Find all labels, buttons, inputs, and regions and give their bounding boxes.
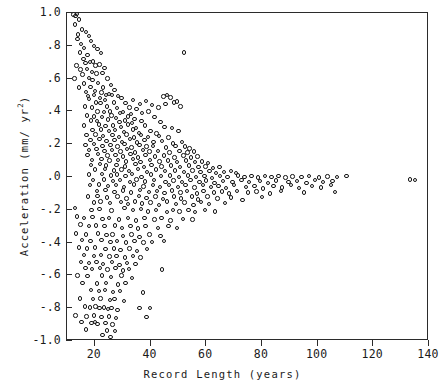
data-point <box>133 199 137 203</box>
data-point <box>100 273 104 277</box>
data-point <box>125 261 129 265</box>
data-point <box>232 183 236 187</box>
data-point <box>297 186 301 190</box>
data-point <box>105 195 109 199</box>
data-point <box>94 260 98 264</box>
data-point <box>112 100 116 104</box>
data-point <box>113 329 117 333</box>
data-point <box>99 51 103 55</box>
data-point <box>201 189 205 193</box>
data-point <box>142 216 146 220</box>
data-point <box>122 206 126 210</box>
data-point <box>246 190 250 194</box>
data-point <box>133 162 137 166</box>
data-point <box>224 186 228 190</box>
data-point <box>84 133 88 137</box>
data-point <box>100 115 104 119</box>
data-point <box>139 207 143 211</box>
data-point <box>75 214 79 218</box>
data-point <box>92 114 96 118</box>
data-point <box>240 198 244 202</box>
data-point <box>195 154 199 158</box>
data-point <box>189 155 193 159</box>
data-point <box>170 188 174 192</box>
data-point <box>92 93 96 97</box>
data-point <box>127 246 131 250</box>
data-point <box>89 39 93 43</box>
y-axis-tick-label: .2 <box>47 136 66 150</box>
data-point <box>100 217 104 221</box>
data-point <box>138 255 142 259</box>
data-point <box>99 127 103 131</box>
data-point <box>121 234 125 238</box>
y-axis-tick-label: -.6 <box>40 267 66 281</box>
data-point <box>123 255 127 259</box>
data-point <box>217 165 221 169</box>
data-point <box>168 218 172 222</box>
x-axis-tick <box>317 340 318 346</box>
data-point <box>138 160 142 164</box>
data-point <box>93 167 97 171</box>
data-point <box>84 232 88 236</box>
data-point <box>172 155 176 159</box>
data-point <box>95 194 99 198</box>
data-point <box>133 150 137 154</box>
data-point <box>178 165 182 169</box>
data-point <box>185 150 189 154</box>
data-point <box>252 184 256 188</box>
data-point <box>147 190 151 194</box>
data-point <box>244 185 248 189</box>
data-point <box>147 232 151 236</box>
data-point <box>131 254 135 258</box>
y-axis-tick-label: .0 <box>47 169 66 183</box>
data-point <box>78 222 82 226</box>
data-point <box>85 113 89 117</box>
y-axis-tick <box>66 209 72 210</box>
data-point <box>143 224 147 228</box>
data-point <box>102 66 106 70</box>
data-point <box>124 159 128 163</box>
x-axis-tick-label: 140 <box>417 347 438 361</box>
data-point <box>88 183 92 187</box>
data-point <box>176 129 180 133</box>
data-point <box>148 306 152 310</box>
data-point <box>148 200 152 204</box>
data-point <box>132 182 136 186</box>
data-point <box>130 121 134 125</box>
data-point <box>120 226 124 230</box>
data-point <box>268 191 272 195</box>
data-point <box>126 216 130 220</box>
data-point <box>134 218 138 222</box>
data-point <box>171 208 175 212</box>
data-point <box>142 138 146 142</box>
data-point <box>333 190 337 194</box>
data-point <box>128 152 132 156</box>
data-point <box>101 262 105 266</box>
data-point <box>313 178 317 182</box>
x-axis-tick <box>372 340 373 346</box>
data-point <box>202 174 206 178</box>
data-point <box>112 297 116 301</box>
data-point <box>146 209 150 213</box>
data-points-layer <box>67 13 429 341</box>
y-axis-tick <box>66 12 72 13</box>
data-point <box>133 262 137 266</box>
data-point <box>182 200 186 204</box>
data-point <box>112 88 116 92</box>
data-point <box>92 313 96 317</box>
data-point <box>98 296 102 300</box>
data-point <box>157 134 161 138</box>
data-point <box>153 194 157 198</box>
data-point <box>96 231 100 235</box>
data-point <box>150 103 154 107</box>
scatter-chart-figure: 1.0.8.6.4.2.0-.2-.4-.6-.8-1.020406080100… <box>0 0 445 391</box>
data-point <box>175 99 179 103</box>
data-point <box>147 149 151 153</box>
data-point <box>102 224 106 228</box>
data-point <box>85 53 89 57</box>
data-point <box>149 163 153 167</box>
x-axis-tick-label: 20 <box>87 347 101 361</box>
data-point <box>271 184 275 188</box>
data-point <box>239 178 243 182</box>
data-point <box>168 173 172 177</box>
